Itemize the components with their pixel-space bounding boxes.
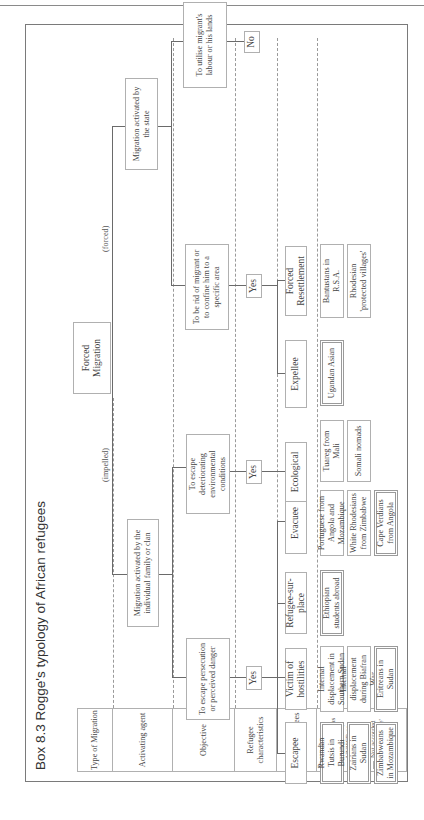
rotated-diagram: Box 8.3 Rogge's typology of African refu… <box>25 24 408 782</box>
connector <box>171 42 172 286</box>
connector <box>262 471 285 472</box>
node-type-victim: Victim of hostilities <box>285 648 307 710</box>
row-header-refugee-characteristics: Refugee characteristics <box>235 708 277 772</box>
node-type-ecological: Ecological <box>285 442 307 502</box>
node-objective-environment: To escape deteriorating environmental co… <box>186 434 230 514</box>
node-yes-rid: Yes <box>246 274 262 298</box>
example-biafran-war: Internal displacement during Biafran War <box>347 646 371 712</box>
connector <box>277 753 285 754</box>
figure-title: Box 8.3 Rogge's typology of African refu… <box>33 501 48 770</box>
connector <box>230 677 246 678</box>
connector <box>171 285 185 286</box>
connector <box>277 522 278 754</box>
connector <box>227 41 244 42</box>
node-forced-migration: Forced Migration <box>73 322 111 394</box>
node-type-escapee: Escapee <box>285 722 307 784</box>
node-yes-environment: Yes <box>246 460 262 484</box>
node-agent-family: Migration activated by the individual fa… <box>127 519 159 627</box>
node-objective-persecution: To escape persecution or perceived dange… <box>186 638 230 720</box>
node-objective-rid: To be rid of migrant or to confine him t… <box>185 244 229 330</box>
example-white-rhodesians: White Rhodesians from Zimbabwe <box>347 490 371 556</box>
connector <box>172 468 173 678</box>
connector <box>277 281 278 374</box>
branch-label-forced: (forced) <box>101 226 110 252</box>
row-divider <box>235 38 236 708</box>
example-cape-verdians: Cape Verdians from Angola <box>374 490 398 556</box>
connector <box>230 471 246 472</box>
node-no-utilise: No <box>244 31 260 53</box>
connector <box>277 373 285 374</box>
connector <box>159 574 172 575</box>
connector <box>172 467 186 468</box>
row-header-type-of-migration: Type of Migration <box>77 708 113 772</box>
example-eritreans: Eritreans in Sudan <box>374 646 398 712</box>
example-zimbabweans: Zimbabweans in Mozambique <box>374 722 398 784</box>
node-type-expellee: Expellee <box>285 340 307 408</box>
node-yes-persecution: Yes <box>246 666 262 690</box>
example-tuareg: Tuareg from Mali <box>320 420 344 482</box>
connector <box>277 521 285 522</box>
example-ugandan-asian: Ugandan Asian <box>320 340 344 406</box>
connector <box>229 285 246 286</box>
node-type-resettlement: Forced Resettlement <box>285 246 307 316</box>
example-rwandan-tutsis: Rwandan Tutsis in Burundi <box>320 722 344 784</box>
example-protected-villages: Rhodesian 'protected villages' <box>347 244 371 318</box>
row-divider <box>317 38 318 708</box>
branch-label-impelled: (impelled) <box>101 448 110 482</box>
row-divider <box>113 398 114 708</box>
example-somali-nomads: Somali nomads <box>347 420 371 482</box>
row-divider <box>173 38 174 708</box>
example-ethiopian-students: Ethiopian students abroad <box>320 570 344 636</box>
connector <box>262 677 277 678</box>
example-zairians: Zairians in Sudan <box>347 722 371 784</box>
example-portuguese: Portuguese from Angola and Mozambique <box>320 490 344 556</box>
connector <box>172 677 186 678</box>
node-type-sur-place: Refugee-sur-place <box>285 572 307 634</box>
row-header-activating-agent: Activating agent <box>113 708 173 772</box>
example-bantustans: Bantustans in R.S.A. <box>320 244 344 318</box>
connector <box>262 285 277 286</box>
node-objective-utilise: To utilise migrant's labour or his lands <box>183 2 227 88</box>
connector <box>158 126 171 127</box>
node-agent-state: Migration activated by the state <box>125 78 158 170</box>
connector <box>112 127 113 575</box>
